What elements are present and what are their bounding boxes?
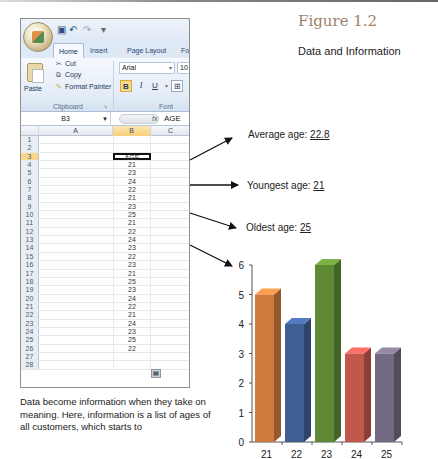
y-tick-label: 3 [238,349,244,360]
age-frequency-chart: 01234562122232425 [230,255,438,459]
bar-side [394,348,401,443]
oldest-age-label: Oldest age: 25 [246,222,311,233]
bar-24 [345,354,364,443]
x-tick-label: 25 [381,449,393,459]
bar-side [334,259,341,442]
bar-side [364,348,371,443]
y-tick-label: 1 [238,408,244,419]
x-tick-label: 21 [261,449,273,459]
bar-22 [285,324,304,442]
youngest-age-value: 21 [313,180,324,191]
average-age-value: 22.8 [310,129,329,140]
x-tick-label: 23 [321,449,333,459]
y-tick-label: 2 [238,378,244,389]
x-tick-label: 24 [351,449,363,459]
y-tick-label: 5 [238,290,244,301]
bar-23 [315,265,334,442]
y-tick-label: 6 [238,260,244,271]
average-age-label: Average age: 22.8 [248,129,330,140]
youngest-age-label: Youngest age: 21 [247,180,324,191]
bar-side [304,318,311,442]
bar-side [274,289,281,443]
oldest-age-value: 25 [300,222,311,233]
bar-25 [375,354,394,443]
y-tick-label: 4 [238,319,244,330]
office-button[interactable] [23,22,53,52]
bar-21 [255,295,274,443]
x-tick-label: 22 [291,449,303,459]
y-tick-label: 0 [238,437,244,448]
